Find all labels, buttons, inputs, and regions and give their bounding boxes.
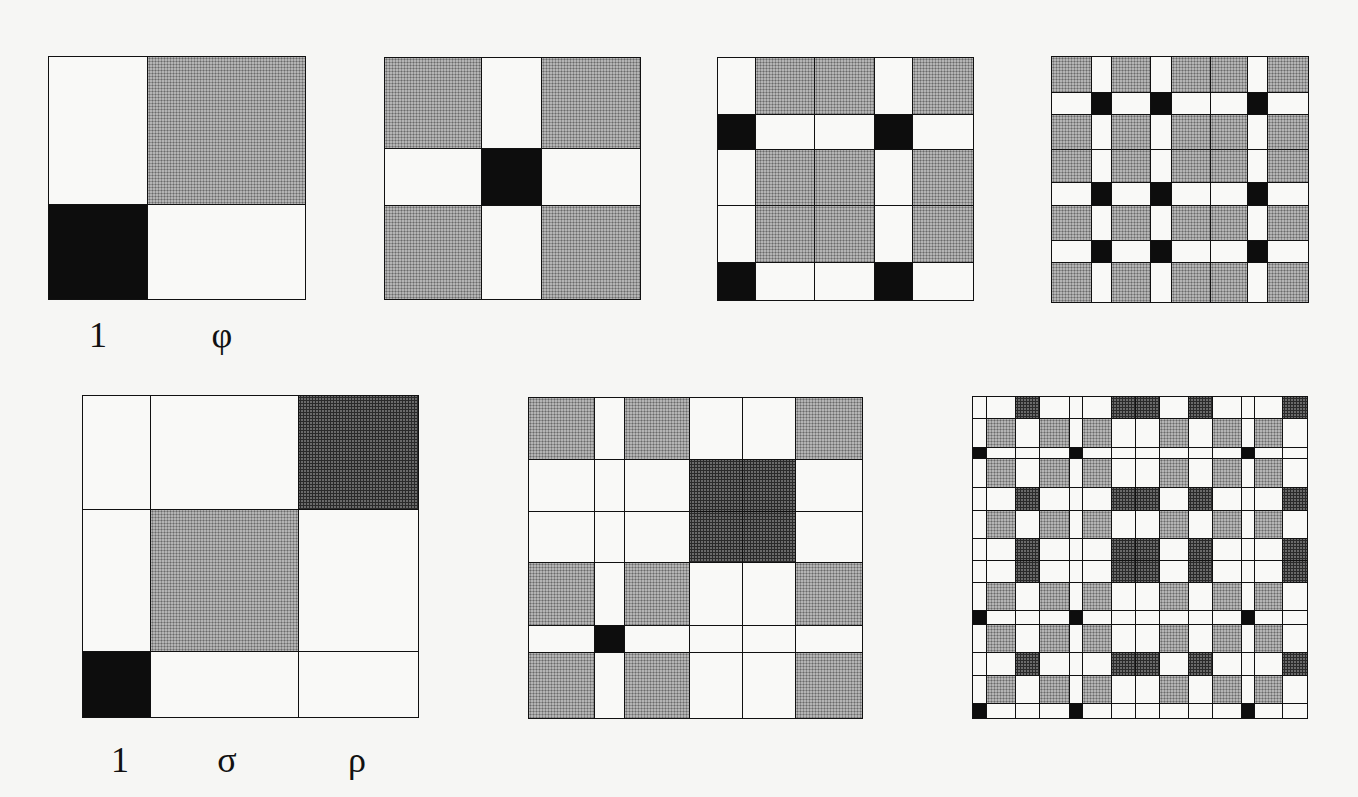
tile-sigma-one bbox=[528, 625, 596, 654]
tile-sigma-rho bbox=[986, 652, 1017, 677]
tile-rho-sigma bbox=[1111, 418, 1137, 449]
tile-one-phi bbox=[481, 57, 543, 150]
tile-rho-rho bbox=[1111, 538, 1137, 562]
tile-phi-phi bbox=[1210, 262, 1249, 303]
tile-sigma-rho bbox=[1082, 396, 1113, 420]
tile-sigma-sigma bbox=[1039, 675, 1071, 705]
tile-one-phi bbox=[1247, 149, 1269, 184]
tile-phi-phi bbox=[1210, 149, 1249, 184]
tile-rho-sigma bbox=[1111, 582, 1137, 612]
tile-rho-rho bbox=[1015, 487, 1041, 512]
tile-rho-sigma bbox=[1282, 675, 1308, 705]
tile-sigma-one bbox=[795, 625, 863, 654]
tile-rho-rho bbox=[689, 511, 744, 564]
tile-rho-rho bbox=[1135, 560, 1161, 584]
tile-sigma-one bbox=[986, 703, 1017, 719]
tile-rho-one bbox=[1111, 703, 1137, 719]
tile-phi-phi bbox=[1267, 262, 1309, 303]
tile-rho-rho bbox=[689, 459, 744, 513]
tile-one-one bbox=[1150, 92, 1173, 116]
axis-label-phi: φ bbox=[212, 317, 233, 353]
tile-phi-one bbox=[912, 262, 974, 301]
tile-rho-one bbox=[689, 625, 744, 654]
grid-panel-top-1 bbox=[49, 57, 305, 299]
tile-sigma-sigma bbox=[1082, 510, 1113, 540]
tile-phi-one bbox=[1051, 240, 1093, 264]
tile-one-phi bbox=[1150, 262, 1173, 303]
tile-sigma-sigma bbox=[1039, 458, 1071, 489]
tile-one-sigma bbox=[594, 562, 626, 627]
tile-phi-phi bbox=[1267, 114, 1309, 151]
tile-sigma-rho bbox=[1254, 396, 1284, 420]
tile-rho-rho bbox=[1282, 652, 1308, 677]
tile-rho-sigma bbox=[1188, 582, 1214, 612]
tile-sigma-sigma bbox=[1082, 458, 1113, 489]
tile-phi-one bbox=[1267, 182, 1309, 207]
tile-sigma-one bbox=[150, 651, 300, 718]
tile-sigma-rho bbox=[1212, 396, 1243, 420]
tile-one-phi bbox=[1091, 149, 1113, 184]
tile-one-one bbox=[48, 204, 149, 300]
tile-phi-phi bbox=[1051, 262, 1093, 303]
tile-sigma-rho bbox=[1159, 560, 1190, 584]
tile-phi-phi bbox=[1267, 149, 1309, 184]
tile-phi-one bbox=[1210, 240, 1249, 264]
tile-rho-sigma bbox=[742, 562, 797, 627]
tile-sigma-one bbox=[1082, 703, 1113, 719]
tile-sigma-rho bbox=[1159, 538, 1190, 562]
tile-rho-sigma bbox=[1135, 510, 1161, 540]
tile-one-phi bbox=[1150, 149, 1173, 184]
tile-rho-sigma bbox=[1282, 624, 1308, 654]
tile-phi-phi bbox=[1051, 149, 1093, 184]
tile-phi-phi bbox=[1111, 262, 1152, 303]
tile-phi-phi bbox=[912, 205, 974, 264]
tile-rho-rho bbox=[1015, 560, 1041, 584]
tile-rho-sigma bbox=[1015, 582, 1041, 612]
tile-rho-sigma bbox=[1015, 624, 1041, 654]
tile-phi-one bbox=[755, 114, 816, 151]
tile-sigma-sigma bbox=[986, 624, 1017, 654]
grid-panel-bottom-2 bbox=[529, 398, 862, 718]
tile-rho-rho bbox=[1111, 487, 1137, 512]
tile-rho-sigma bbox=[1015, 510, 1041, 540]
tile-phi-phi bbox=[1051, 114, 1093, 151]
tile-rho-sigma bbox=[1135, 582, 1161, 612]
tile-rho-rho bbox=[742, 511, 797, 564]
tile-sigma-sigma bbox=[1159, 624, 1190, 654]
tile-phi-phi bbox=[1171, 205, 1212, 242]
tile-sigma-sigma bbox=[528, 562, 596, 627]
tile-one-phi bbox=[717, 57, 757, 116]
tile-sigma-rho bbox=[1039, 487, 1071, 512]
tile-sigma-sigma bbox=[1254, 675, 1284, 705]
tile-sigma-sigma bbox=[1212, 624, 1243, 654]
tile-one-one bbox=[1150, 240, 1173, 264]
tile-sigma-sigma bbox=[1254, 510, 1284, 540]
tile-sigma-sigma bbox=[1212, 510, 1243, 540]
tile-rho-rho bbox=[1188, 652, 1214, 677]
tile-sigma-sigma bbox=[1082, 675, 1113, 705]
tile-sigma-sigma bbox=[1039, 582, 1071, 612]
tile-phi-phi bbox=[755, 57, 816, 116]
tile-sigma-sigma bbox=[986, 418, 1017, 449]
tile-phi-one bbox=[1171, 92, 1212, 116]
tile-sigma-sigma bbox=[624, 652, 691, 719]
tile-phi-one bbox=[755, 262, 816, 301]
tile-rho-sigma bbox=[1188, 675, 1214, 705]
tile-sigma-one bbox=[1212, 703, 1243, 719]
tile-phi-phi bbox=[1051, 205, 1093, 242]
tile-phi-phi bbox=[1210, 205, 1249, 242]
tile-sigma-sigma bbox=[986, 458, 1017, 489]
tile-sigma-sigma bbox=[1212, 458, 1243, 489]
tile-phi-one bbox=[1210, 182, 1249, 207]
tile-one-sigma bbox=[82, 509, 152, 653]
tile-phi-one bbox=[541, 148, 641, 207]
tile-rho-sigma bbox=[1282, 510, 1308, 540]
axis-label-one: 1 bbox=[111, 742, 129, 778]
tile-sigma-sigma bbox=[986, 582, 1017, 612]
tile-sigma-sigma bbox=[1039, 510, 1071, 540]
tile-one-phi bbox=[717, 205, 757, 264]
tile-rho-rho bbox=[742, 459, 797, 513]
tile-rho-rho bbox=[1135, 487, 1161, 512]
tile-phi-phi bbox=[147, 56, 306, 206]
tile-rho-rho bbox=[298, 395, 419, 511]
